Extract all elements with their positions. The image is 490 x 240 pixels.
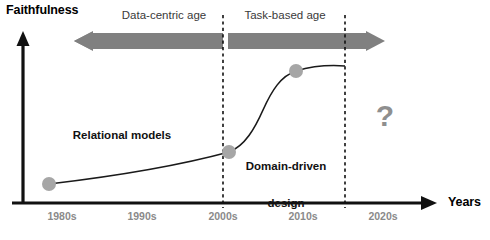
annotation-line-2: design xyxy=(246,197,327,209)
era-label-data-centric: Data-centric age xyxy=(122,9,206,21)
x-tick-label-2010s: 2010s xyxy=(288,211,317,222)
data-point-marker xyxy=(222,145,236,159)
era-arrow-data-centric xyxy=(74,31,223,51)
x-tick-label-2000s: 2000s xyxy=(208,211,237,222)
future-unknown-question-icon: ? xyxy=(376,101,394,131)
era-arrow-task-based xyxy=(228,31,385,51)
data-point-marker xyxy=(289,64,303,78)
x-tick-label-2020s: 2020s xyxy=(368,211,397,222)
timeline-diagram: Faithfulness Years Data-centric age Task… xyxy=(0,0,490,240)
x-axis xyxy=(12,196,437,210)
annotation-relational-models: Relational models xyxy=(73,129,171,141)
annotation-line-1: Domain-driven xyxy=(246,160,327,172)
x-tick-label-1980s: 1980s xyxy=(47,211,76,222)
x-tick-label-1990s: 1990s xyxy=(127,211,156,222)
x-axis-title: Years xyxy=(448,196,481,210)
y-axis-title: Faithfulness xyxy=(6,4,78,18)
y-axis xyxy=(17,31,30,203)
data-point-marker xyxy=(42,177,56,191)
era-label-task-based: Task-based age xyxy=(244,9,325,21)
